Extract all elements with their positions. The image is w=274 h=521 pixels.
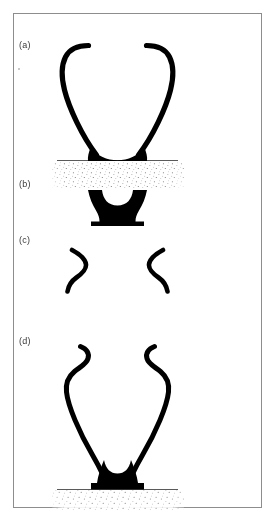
panel-label-a: (a)	[19, 41, 31, 50]
figure-frame	[13, 13, 262, 508]
margin-tick-mark	[18, 68, 20, 70]
panel-label-d: (d)	[19, 337, 31, 346]
panel-label-b: (b)	[19, 180, 31, 189]
figure-root: (a) (b) (c) (d)	[0, 0, 274, 521]
panel-label-c: (c)	[19, 236, 30, 245]
